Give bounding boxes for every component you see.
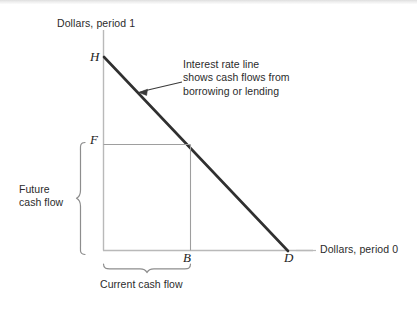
interest-line-annotation-line-3: borrowing or lending	[183, 85, 290, 98]
interest-line-annotation-line-2: shows cash flows from	[183, 71, 290, 84]
figure-canvas	[0, 0, 417, 310]
future-cash-flow-brace	[77, 143, 86, 255]
current-cash-flow-label: Current cash flow	[100, 278, 183, 291]
interest-line-annotation-line-1: Interest rate line	[183, 58, 290, 71]
point-label-f: F	[90, 132, 98, 149]
point-label-d: D	[284, 250, 293, 267]
future-cash-flow-label-line-2: cash flow	[19, 196, 63, 209]
future-cash-flow-label: Future cash flow	[19, 183, 63, 210]
y-axis-title: Dollars, period 1	[57, 17, 135, 30]
x-axis-title: Dollars, period 0	[320, 243, 398, 256]
point-label-b: B	[183, 250, 191, 267]
current-cash-flow-brace	[104, 264, 191, 273]
interest-rate-line-figure: Dollars, period 1 Dollars, period 0 H F …	[0, 0, 417, 310]
point-label-h: H	[90, 49, 99, 66]
interest-line-annotation: Interest rate line shows cash flows from…	[183, 58, 290, 98]
future-cash-flow-label-line-1: Future	[19, 183, 63, 196]
